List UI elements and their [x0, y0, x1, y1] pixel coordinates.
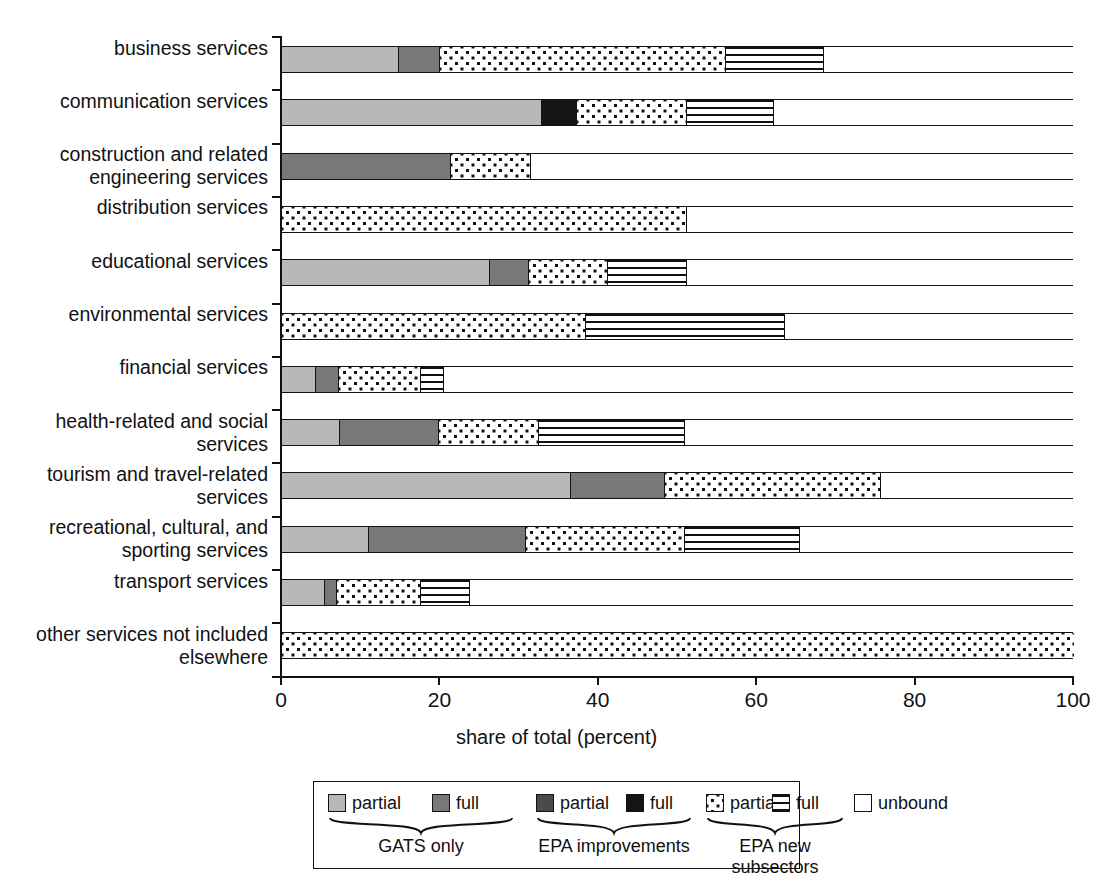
legend-item-epa-improvements-partial[interactable]: partial — [536, 790, 609, 816]
segment-gats-full — [399, 47, 440, 72]
legend-brace-icon — [536, 818, 692, 836]
stacked-bar — [281, 419, 1073, 446]
category-label: environmental services — [6, 303, 268, 326]
segment-unbound — [687, 207, 1074, 232]
x-axis-tick-label: 0 — [275, 688, 287, 712]
y-axis-tick — [272, 409, 281, 411]
segment-gats-full — [325, 580, 338, 605]
x-axis-tick-label: 40 — [586, 688, 609, 712]
y-axis-tick — [272, 516, 281, 518]
y-axis-tick — [272, 143, 281, 145]
segment-gats-full — [340, 420, 439, 445]
bar-row — [281, 313, 1073, 340]
x-axis-line — [280, 676, 1074, 678]
y-axis-tick — [272, 196, 281, 198]
segment-gats-partial — [282, 47, 399, 72]
legend-swatch-icon — [854, 794, 872, 812]
segment-gats-partial — [282, 473, 571, 498]
y-axis-tick — [272, 462, 281, 464]
bar-row — [281, 526, 1073, 553]
segment-new-full — [687, 100, 774, 125]
bar-row — [281, 46, 1073, 73]
segment-unbound — [687, 260, 1074, 285]
bar-row — [281, 99, 1073, 126]
stacked-bar-chart: 020406080100 share of total (percent) pa… — [0, 0, 1113, 893]
segment-new-full — [726, 47, 824, 72]
bar-row — [281, 472, 1073, 499]
x-axis-tick — [914, 676, 916, 685]
y-axis-tick — [272, 356, 281, 358]
y-axis-tick — [272, 676, 281, 678]
segment-epa-full — [542, 100, 577, 125]
legend-item-label: full — [456, 793, 479, 814]
category-label: other services not included elsewhere — [6, 623, 268, 669]
segment-unbound — [444, 367, 1074, 392]
legend-item-label: full — [650, 793, 673, 814]
segment-new-full — [685, 527, 800, 552]
segment-unbound — [470, 580, 1074, 605]
legend-brace-icon — [706, 818, 844, 836]
segment-new-full — [421, 580, 469, 605]
segment-gats-full — [369, 527, 526, 552]
segment-unbound — [800, 527, 1074, 552]
legend-swatch-icon — [706, 794, 724, 812]
legend-item-gats-only-partial[interactable]: partial — [328, 790, 401, 816]
legend-item-epa-new-subsectors-full[interactable]: full — [772, 790, 819, 816]
legend-brace-icon — [328, 818, 514, 836]
segment-gats-full — [282, 154, 451, 179]
segment-new-partial — [282, 314, 586, 339]
segment-gats-partial — [282, 527, 369, 552]
segment-new-partial — [526, 527, 685, 552]
x-axis-tick — [755, 676, 757, 685]
x-axis-tick-label: 80 — [903, 688, 926, 712]
segment-unbound — [531, 154, 1074, 179]
segment-new-partial — [665, 473, 880, 498]
legend-group-label: EPA improvements — [536, 836, 692, 857]
legend-swatch-icon — [536, 794, 554, 812]
plot-area — [281, 36, 1073, 676]
bar-row — [281, 206, 1073, 233]
legend-item-label: unbound — [878, 793, 948, 814]
legend-swatch-icon — [328, 794, 346, 812]
segment-gats-partial — [282, 420, 340, 445]
y-axis-tick — [272, 622, 281, 624]
segment-new-partial — [282, 207, 687, 232]
legend-item-epa-improvements-full[interactable]: full — [626, 790, 673, 816]
stacked-bar — [281, 472, 1073, 499]
segment-gats-partial — [282, 100, 542, 125]
legend-item-epa-new-subsectors-partial[interactable]: partial — [706, 790, 779, 816]
segment-gats-full — [490, 260, 530, 285]
segment-new-partial — [337, 580, 421, 605]
bar-row — [281, 153, 1073, 180]
legend-item-label: full — [796, 793, 819, 814]
category-label: health-related and social services — [6, 410, 268, 456]
stacked-bar — [281, 313, 1073, 340]
segment-gats-partial — [282, 367, 316, 392]
segment-unbound — [774, 100, 1074, 125]
bar-row — [281, 579, 1073, 606]
segment-gats-full — [316, 367, 339, 392]
legend-item-unbound[interactable]: unbound — [854, 790, 948, 816]
y-axis-tick — [272, 249, 281, 251]
segment-new-partial — [440, 47, 725, 72]
stacked-bar — [281, 153, 1073, 180]
category-label: tourism and travel-related services — [6, 463, 268, 509]
stacked-bar — [281, 632, 1073, 659]
category-label: distribution services — [6, 196, 268, 219]
legend: partialfullpartialfullpartialfullunbound… — [313, 781, 800, 869]
segment-gats-full — [571, 473, 665, 498]
legend-items: partialfullpartialfullpartialfullunbound — [314, 790, 801, 820]
x-axis-tick — [1072, 676, 1074, 685]
segment-gats-partial — [282, 260, 490, 285]
legend-item-gats-only-full[interactable]: full — [432, 790, 479, 816]
category-label: communication services — [6, 90, 268, 113]
segment-new-partial — [282, 633, 1074, 658]
bar-row — [281, 366, 1073, 393]
stacked-bar — [281, 99, 1073, 126]
segment-new-full — [586, 314, 785, 339]
category-label: construction and related engineering ser… — [6, 143, 268, 189]
segment-new-partial — [529, 260, 608, 285]
legend-swatch-icon — [432, 794, 450, 812]
x-axis-tick-label: 60 — [745, 688, 768, 712]
legend-swatch-icon — [772, 794, 790, 812]
